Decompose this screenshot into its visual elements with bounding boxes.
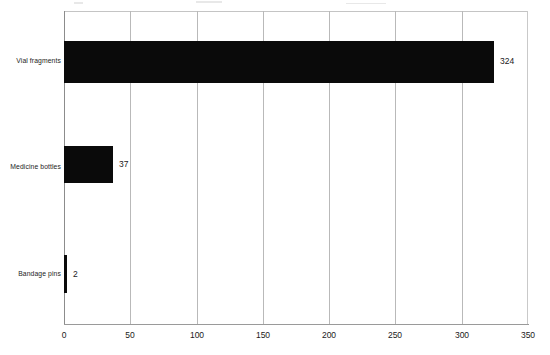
xtick-label-50: 50 xyxy=(125,331,134,340)
bar-vial-fragments[interactable] xyxy=(64,41,494,83)
bar-value-bandage-pins: 2 xyxy=(73,270,78,279)
scan-artifact xyxy=(74,2,83,4)
x-axis-line xyxy=(64,324,529,325)
bar-medicine-bottles[interactable] xyxy=(64,146,113,183)
plot-top-border xyxy=(64,11,528,12)
category-label-bandage-pins: Bandage pins xyxy=(0,271,61,278)
category-label-vial-fragments: Vial fragments xyxy=(0,58,61,65)
xtick-label-200: 200 xyxy=(322,331,336,340)
xtick-label-250: 250 xyxy=(388,331,402,340)
xtick-label-0: 0 xyxy=(62,331,67,340)
scan-artifact xyxy=(196,1,222,3)
xtick-label-100: 100 xyxy=(190,331,204,340)
bar-value-medicine-bottles: 37 xyxy=(119,160,128,169)
bar-value-vial-fragments: 324 xyxy=(500,57,514,66)
xtick-label-300: 300 xyxy=(455,331,469,340)
xtick-label-150: 150 xyxy=(256,331,270,340)
xtick-label-350: 350 xyxy=(521,331,535,340)
category-label-medicine-bottles: Medicine bottles xyxy=(0,164,61,171)
plot-area: 324 37 2 xyxy=(64,11,528,324)
gridline-350 xyxy=(527,11,528,324)
horizontal-bar-chart: 324 37 2 Vial fragments Medicine bottles… xyxy=(0,0,550,355)
bar-bandage-pins[interactable] xyxy=(64,255,67,293)
scan-artifact xyxy=(346,3,386,4)
